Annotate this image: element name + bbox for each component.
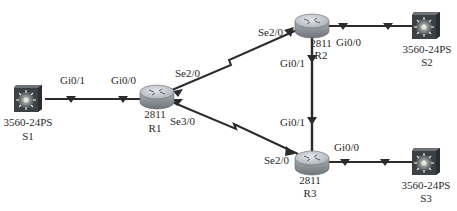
port-label-r3-gi01: Gi0/1: [280, 117, 305, 128]
arrow-icon: [307, 117, 317, 125]
device-name-r2: R2: [315, 50, 328, 61]
port-label-s1-gi01: Gi0/1: [60, 75, 85, 86]
device-model-s3: 3560-24PS: [402, 180, 451, 191]
port-label-r2-gi00: Gi0/0: [336, 37, 361, 48]
link-r1-r3-serial[interactable]: [172, 102, 298, 154]
port-label-r3-gi00: Gi0/0: [334, 142, 359, 153]
device-name-s3: S3: [420, 193, 432, 204]
router-r3[interactable]: [295, 151, 329, 175]
router-r2[interactable]: [295, 14, 329, 38]
port-label-r2-gi01: Gi0/1: [280, 58, 305, 69]
device-model-r1: 2811: [144, 109, 166, 120]
switch-s2[interactable]: [412, 12, 440, 39]
device-model-r2: 2811: [310, 38, 332, 49]
port-label-r3-se20: Se2/0: [264, 155, 289, 166]
device-name-r3: R3: [304, 188, 317, 199]
switch-s1[interactable]: [14, 85, 42, 112]
link-r1-r2-serial[interactable]: [172, 30, 297, 90]
switch-s3[interactable]: [412, 148, 440, 175]
port-label-r1-gi00: Gi0/0: [111, 75, 136, 86]
arrow-icon: [173, 89, 183, 97]
device-model-s1: 3560-24PS: [4, 117, 53, 128]
device-model-r3: 2811: [299, 175, 321, 186]
port-label-r2-se20: Se2/0: [258, 27, 283, 38]
device-name-s2: S2: [421, 57, 433, 68]
device-name-s1: S1: [22, 131, 34, 142]
router-r1[interactable]: [140, 85, 174, 109]
network-diagram: [0, 0, 457, 211]
port-label-r1-se30: Se3/0: [170, 116, 195, 127]
device-model-s2: 3560-24PS: [403, 44, 452, 55]
device-name-r1: R1: [149, 123, 162, 134]
port-label-r1-se20: Se2/0: [175, 68, 200, 79]
